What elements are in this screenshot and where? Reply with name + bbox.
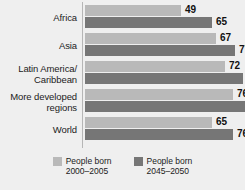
legend-swatch-icon [53, 157, 62, 166]
bar-value-label: 49 [185, 4, 196, 15]
category-label: More developed regions [0, 92, 77, 113]
bar-row: Latin America/ Caribbean728 [0, 60, 245, 88]
bar-row: Asia6777 [0, 32, 245, 60]
bar-pair: 76 [85, 88, 245, 116]
bar-dark [85, 129, 233, 140]
bar-row: More developed regions76 [0, 88, 245, 116]
bar-value-label: 76 [237, 88, 245, 99]
bar-light [85, 61, 225, 72]
bar-light [85, 33, 216, 44]
legend-item-0: People born 2000–2005 [53, 156, 112, 176]
legend-item-1: People born 2045–2050 [134, 156, 193, 176]
bar-light [85, 5, 181, 16]
category-label: Latin America/ Caribbean [0, 64, 77, 85]
plot-area: Africa4965Asia6777Latin America/ Caribbe… [0, 0, 245, 152]
bar-value-label: 67 [220, 32, 231, 43]
category-label: Africa [0, 13, 77, 24]
legend-label: People born 2045–2050 [147, 156, 193, 176]
bar-dark [85, 101, 245, 112]
bar-dark [85, 73, 243, 84]
bar-light [85, 117, 212, 128]
legend-swatch-icon [134, 157, 143, 166]
bar-pair: 728 [85, 60, 245, 88]
bar-light [85, 89, 233, 100]
bar-chart: Africa4965Asia6777Latin America/ Caribbe… [0, 0, 245, 190]
bar-dark [85, 45, 235, 56]
bar-rows: Africa4965Asia6777Latin America/ Caribbe… [0, 0, 245, 152]
bar-value-label: 72 [229, 60, 240, 71]
legend-label: People born 2000–2005 [66, 156, 112, 176]
bar-pair: 4965 [85, 4, 245, 32]
bar-value-label: 65 [216, 116, 227, 127]
bar-value-label: 77 [239, 44, 245, 55]
bar-pair: 6576 [85, 116, 245, 144]
bar-value-label: 76 [237, 128, 245, 139]
category-label: Asia [0, 41, 77, 52]
category-label: World [0, 125, 77, 136]
bar-dark [85, 17, 212, 28]
chart-legend: People born 2000–2005 People born 2045–2… [0, 154, 245, 186]
bar-value-label: 65 [216, 16, 227, 27]
bar-row: Africa4965 [0, 4, 245, 32]
bar-pair: 6777 [85, 32, 245, 60]
bar-row: World6576 [0, 116, 245, 144]
